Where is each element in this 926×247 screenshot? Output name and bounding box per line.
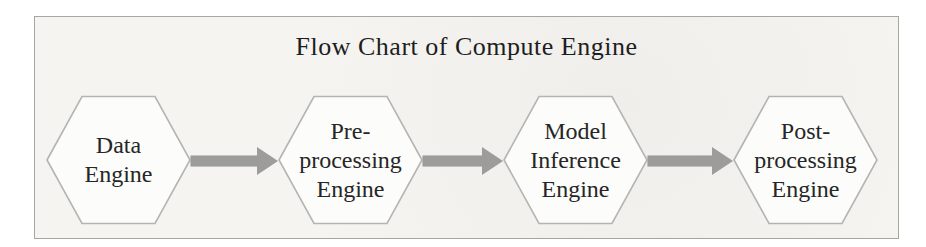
node-label-line: Engine [542,175,610,204]
arrow-head [712,147,733,175]
node-post-processing-engine: Post- processing Engine [733,95,878,225]
node-label-line: Pre- [331,117,371,146]
figure-title: Flow Chart of Compute Engine [35,31,898,63]
node-label-line: Engine [85,160,153,189]
node-label: Post- processing Engine [733,95,878,225]
arrow-head [482,147,503,175]
arrow-right-icon [191,147,278,175]
arrow-right-icon [648,147,733,175]
node-label-line: processing [754,146,857,175]
node-label: Data Engine [46,95,191,225]
node-label-line: Post- [781,117,830,146]
flowchart-frame: Flow Chart of Compute Engine Data Engine… [34,16,899,239]
arrow-right-icon [423,147,503,175]
arrow-shaft [648,156,714,166]
arrow-shaft [423,156,484,166]
arrow-head [257,147,278,175]
node-label-line: Inference [530,146,621,175]
node-label: Model Inference Engine [503,95,648,225]
node-label-line: Engine [772,175,840,204]
node-pre-processing-engine: Pre- processing Engine [278,95,423,225]
node-data-engine: Data Engine [46,95,191,225]
node-model-inference-engine: Model Inference Engine [503,95,648,225]
node-label-line: Engine [317,175,385,204]
arrow-shaft [191,156,259,166]
node-label-line: Data [96,131,141,160]
node-label-line: Model [544,117,607,146]
scanned-figure: Flow Chart of Compute Engine Data Engine… [0,0,926,247]
node-label: Pre- processing Engine [278,95,423,225]
node-label-line: processing [299,146,402,175]
